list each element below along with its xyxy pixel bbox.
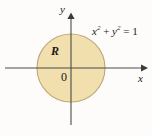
circle-equation-annotation: x2 + y2 = 1 <box>92 26 138 37</box>
equation-rhs: 1 <box>132 25 138 37</box>
x-axis-label: x <box>138 73 143 84</box>
y-axis-label: y <box>60 4 65 15</box>
region-label-R: R <box>51 45 59 57</box>
y-axis-arrow-icon <box>67 13 74 20</box>
math-figure-unit-disk: y x R 0 x2 + y2 = 1 <box>0 0 152 136</box>
origin-label: 0 <box>61 71 67 83</box>
equation-plus: + <box>100 25 112 37</box>
diagram-canvas <box>0 0 152 136</box>
equation-equals: = <box>121 25 133 37</box>
x-axis-arrow-icon <box>141 64 148 71</box>
